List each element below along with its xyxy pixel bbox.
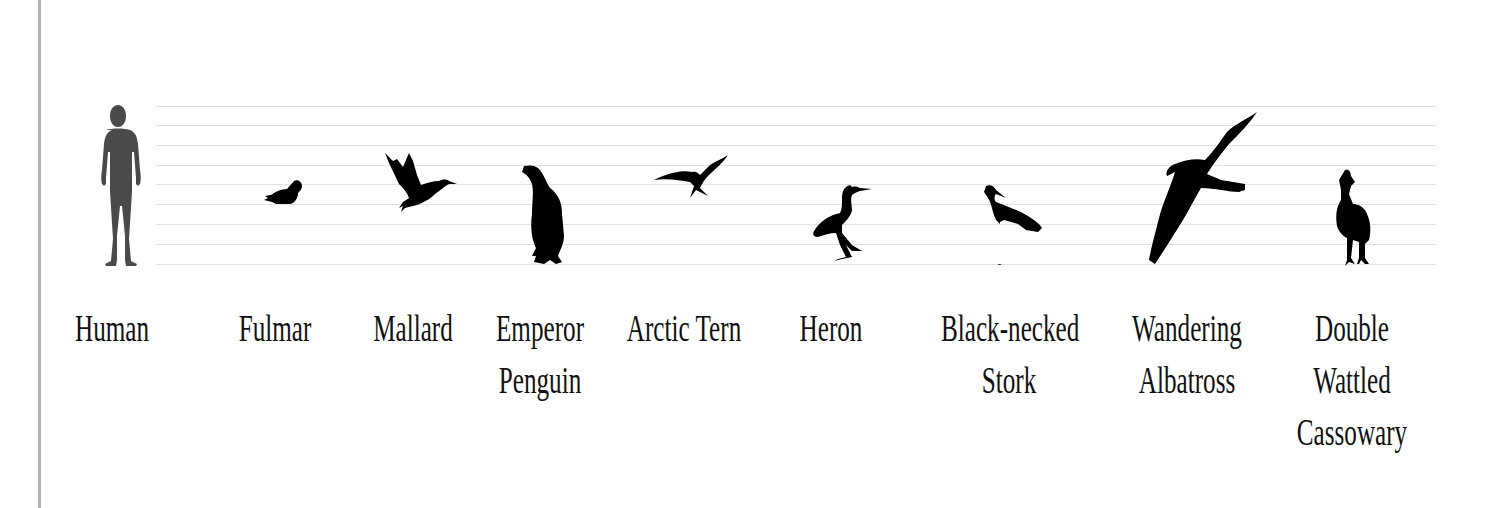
label-line: Fulmar (207, 303, 343, 355)
heron-silhouette-icon (806, 185, 872, 265)
label-heron: Heron (763, 303, 899, 355)
label-line: Arctic Tern (616, 303, 752, 355)
cassowary-silhouette-icon (1333, 168, 1375, 268)
label-emperor-penguin: Emperor Penguin (472, 303, 608, 407)
human-silhouette-icon (95, 105, 141, 266)
label-line: Emperor (472, 303, 608, 355)
label-wandering-albatross: Wandering Albatross (1119, 303, 1255, 407)
label-arctic-tern: Arctic Tern (616, 303, 752, 355)
label-line: Stork (941, 355, 1077, 407)
label-double-wattled-cassowary: Double Wattled Cassowary (1284, 303, 1420, 459)
label-line: Penguin (472, 355, 608, 407)
label-line: Double (1284, 303, 1420, 355)
tern-silhouette-icon (652, 154, 729, 200)
label-line: Wandering (1119, 303, 1255, 355)
label-fulmar: Fulmar (207, 303, 343, 355)
label-mallard: Mallard (345, 303, 481, 355)
mallard-silhouette-icon (383, 151, 459, 218)
label-line: Cassowary (1284, 407, 1420, 459)
stork-silhouette-icon (982, 184, 1045, 265)
fulmar-silhouette-icon (264, 179, 304, 205)
label-black-necked-stork: Black-necked Stork (941, 303, 1077, 407)
label-line: Mallard (345, 303, 481, 355)
label-line: Wattled (1284, 355, 1420, 407)
left-border-rule (38, 0, 41, 508)
grid-line (156, 106, 1436, 107)
penguin-silhouette-icon (522, 164, 568, 265)
label-line: Heron (763, 303, 899, 355)
label-line: Albatross (1119, 355, 1255, 407)
label-line: Black-necked (941, 303, 1077, 355)
label-human: Human (44, 303, 180, 355)
label-line: Human (44, 303, 180, 355)
albatross-silhouette-icon (1139, 110, 1259, 266)
